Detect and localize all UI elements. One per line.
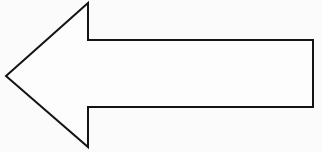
arrow-canvas	[0, 0, 322, 152]
left-arrow-icon	[0, 0, 322, 152]
